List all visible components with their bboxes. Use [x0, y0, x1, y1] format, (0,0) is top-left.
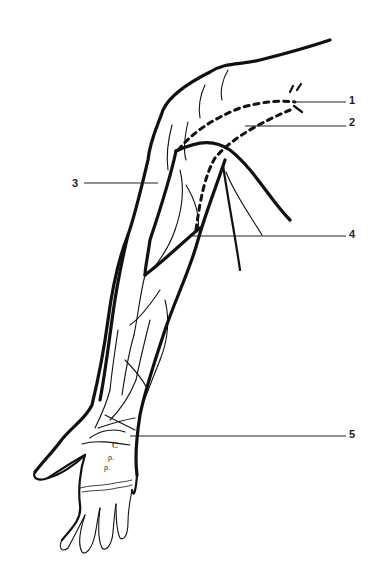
callout-4: 4 [349, 229, 355, 240]
callout-3: 3 [72, 178, 78, 189]
callout-5: 5 [349, 429, 355, 440]
arm-diagram: C ρ. ρ. [0, 0, 376, 577]
lymph-vessel-lower [196, 110, 290, 230]
svg-text:ρ.: ρ. [104, 463, 110, 472]
callout-2: 2 [349, 117, 355, 128]
arm-outline [34, 40, 330, 480]
hand-marks: C [112, 440, 118, 450]
svg-text:ρ.: ρ. [108, 453, 114, 462]
callout-1: 1 [349, 95, 355, 106]
hand: C ρ. ρ. [48, 430, 137, 553]
